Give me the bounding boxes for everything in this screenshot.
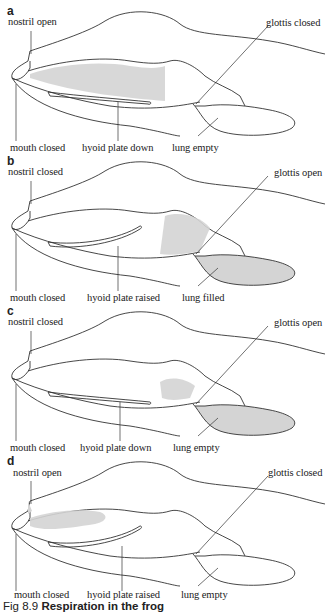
- mouth-label: mouth closed: [10, 442, 65, 453]
- caption-title: Respiration in the frog: [41, 600, 164, 612]
- mouth-label: mouth closed: [10, 292, 65, 303]
- frog-head-diagram-d: [0, 456, 331, 606]
- panel-label-d: d: [7, 454, 14, 468]
- caption-number: Fig 8.9: [3, 600, 38, 612]
- hyoid-label: hyoid plate raised: [87, 589, 160, 600]
- panel-c: c nostril closed mouth closed hyoid plat…: [0, 306, 331, 456]
- hyoid-label: hyoid plate down: [82, 142, 153, 153]
- nostril-label: nostril open: [13, 467, 62, 478]
- panel-a: a nostril open mouth closed hyoid plate …: [0, 6, 331, 156]
- glottis-label: glottis closed: [266, 17, 320, 28]
- lung-label: lung filled: [182, 292, 224, 303]
- glottis-label: glottis open: [274, 317, 322, 328]
- mouth-label: mouth closed: [10, 142, 65, 153]
- hyoid-label: hyoid plate down: [80, 442, 151, 453]
- frog-head-diagram-b: [0, 156, 331, 306]
- nostril-label: nostril closed: [8, 166, 63, 177]
- nostril-label: nostril open: [8, 16, 57, 27]
- frog-head-diagram-c: [0, 306, 331, 456]
- panel-d: d nostril open mouth closed hyoid plate …: [0, 456, 331, 606]
- lung-label: lung empty: [173, 442, 220, 453]
- panel-b: b nostril closed mouth closed hyoid plat…: [0, 156, 331, 306]
- hyoid-label: hyoid plate raised: [87, 292, 160, 303]
- figure-caption: Fig 8.9 Respiration in the frog: [3, 600, 164, 612]
- lung-label: lung empty: [172, 142, 219, 153]
- nostril-label: nostril closed: [8, 316, 63, 327]
- frog-head-diagram-a: [0, 6, 331, 156]
- glottis-label: glottis closed: [268, 467, 322, 478]
- lung-label: lung empty: [181, 589, 228, 600]
- mouth-label: mouth closed: [14, 589, 69, 600]
- glottis-label: glottis open: [274, 167, 322, 178]
